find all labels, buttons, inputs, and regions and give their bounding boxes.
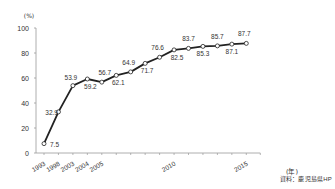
y-tick-label: 20 [21,125,29,132]
data-point-marker [158,55,162,59]
data-point-marker [244,41,248,45]
data-point-marker [172,48,176,52]
data-label: 85.3 [197,50,210,57]
data-label: 82.5 [171,54,184,61]
data-point-marker [85,77,89,81]
x-tick-label: 2005 [88,160,104,173]
y-tick-label: 0 [25,150,29,157]
data-label: 85.7 [211,33,224,40]
y-tick-label: 40 [21,100,29,107]
data-point-marker [143,61,147,65]
data-label: 76.6 [151,44,164,51]
series-line [44,43,246,143]
chart-plot: 020406080100(%)1993199820032004200520102… [0,0,335,189]
source-note: 資料：鹿児島県HP [280,174,332,183]
data-label: 83.7 [182,35,195,42]
data-point-marker [230,42,234,46]
data-label: 7.5 [50,141,59,148]
data-point-marker [42,142,46,146]
data-point-marker [187,46,191,50]
y-tick-label: 60 [21,75,29,82]
y-axis-unit: (%) [24,12,34,19]
data-label: 59.2 [84,83,97,90]
data-point-marker [100,80,104,84]
y-tick-label: 80 [21,50,29,57]
data-point-marker [71,84,75,88]
data-point-marker [129,70,133,74]
line-chart: 020406080100(%)1993199820032004200520102… [0,0,335,189]
data-label: 64.9 [122,59,135,66]
data-label: 53.9 [65,74,78,81]
data-label: 62.1 [112,79,125,86]
data-label: 32.9 [45,109,58,116]
data-point-marker [201,44,205,48]
data-label: 87.7 [238,30,251,37]
x-tick-label: 2010 [161,160,177,173]
y-tick-label: 100 [17,25,29,32]
data-label: 56.7 [98,69,111,76]
x-tick-label: 2015 [233,160,249,173]
data-label: 87.1 [226,48,239,55]
data-label: 71.7 [141,67,154,74]
data-point-marker [114,73,118,77]
data-point-marker [215,44,219,48]
